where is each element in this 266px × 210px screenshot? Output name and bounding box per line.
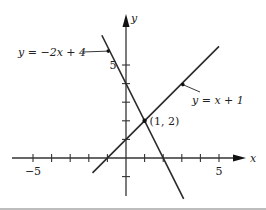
x-tick-label: 5 xyxy=(216,165,223,178)
x-tick-label: −5 xyxy=(25,165,41,178)
leader-arrow-1-icon xyxy=(106,49,110,53)
series-label-1: y = −2x + 4 xyxy=(17,46,86,59)
x-axis-label: x xyxy=(250,152,257,165)
intersection-point xyxy=(142,119,146,123)
series-label-2: y = x + 1 xyxy=(191,94,244,107)
y-axis-arrow-icon xyxy=(123,14,130,27)
intersection-label: (1, 2) xyxy=(150,115,180,128)
leader-arrow-2-icon xyxy=(181,83,185,87)
bottom-rule xyxy=(0,208,266,210)
y-axis-label: y xyxy=(130,12,138,25)
x-axis-arrow-icon xyxy=(233,155,246,162)
leader-line-2 xyxy=(183,85,200,92)
chart: xy −555 y = −2x + 4y = x + 1(1, 2) xyxy=(0,0,266,210)
